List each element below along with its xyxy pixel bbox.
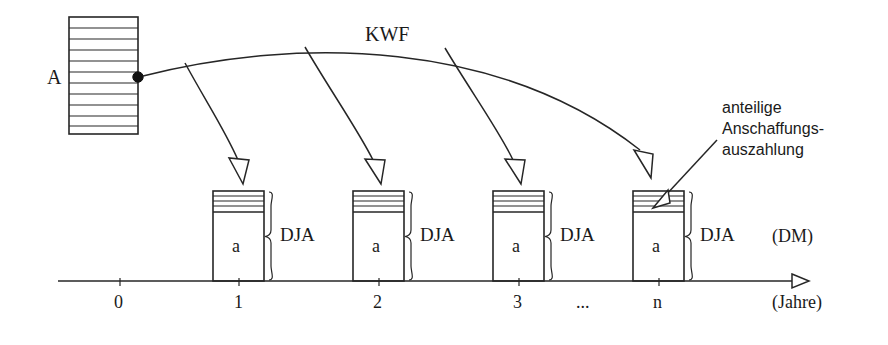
kwf-label: KWF	[365, 23, 409, 47]
bar-body-label-4: a	[652, 236, 660, 257]
annuity-bar-2	[353, 191, 412, 281]
diagram-canvas: .s { fill: none; stroke: #262626; stroke…	[0, 0, 888, 345]
arrowhead-annotation	[653, 190, 670, 208]
arrowhead-year-2	[365, 159, 385, 184]
brace-label-2: DJA	[420, 224, 455, 246]
time-axis	[58, 274, 809, 288]
brace-label-1: DJA	[280, 224, 315, 246]
origin-node	[133, 72, 143, 82]
initial-outlay-block	[69, 17, 138, 134]
initial-outlay-label: A	[47, 66, 61, 90]
axis-tick-label-0: 0	[114, 292, 123, 313]
axis-tick-label-2: 2	[373, 292, 382, 313]
annuity-bar-1	[213, 191, 272, 281]
branch-arc-year-2	[305, 47, 385, 184]
bar-body-label-1: a	[232, 236, 240, 257]
brace-label-3: DJA	[560, 224, 595, 246]
cash-flow-diagram: .s { fill: none; stroke: #262626; stroke…	[0, 0, 888, 345]
arrowhead-year-n	[634, 150, 653, 178]
x-unit-label: (Jahre)	[772, 292, 822, 313]
brace-4	[685, 192, 692, 280]
branch-arc-year-1	[185, 63, 249, 184]
axis-ellipsis: ...	[576, 292, 590, 313]
arrowhead-year-1	[229, 158, 249, 184]
y-unit-label: (DM)	[772, 226, 813, 247]
bar-body-label-3: a	[512, 236, 520, 257]
annotation-line-2: Anschaffungs-	[722, 119, 824, 140]
branch-arc-year-3	[445, 48, 525, 184]
axis-tick-label-1: 1	[234, 292, 243, 313]
axis-tick-label-3: 3	[513, 292, 522, 313]
axis-arrowhead	[792, 274, 809, 288]
brace-3	[545, 192, 552, 280]
brace-2	[405, 192, 412, 280]
annuity-bar-3	[493, 191, 552, 281]
brace-1	[265, 192, 272, 280]
brace-label-4: DJA	[700, 224, 735, 246]
axis-tick-label-n: n	[653, 292, 662, 313]
annotation-leader	[653, 140, 717, 208]
arrowhead-year-3	[505, 159, 525, 184]
annotation-line-1: anteilige	[722, 98, 782, 119]
kwf-arc-group	[143, 53, 653, 178]
bar-body-label-2: a	[372, 236, 380, 257]
annotation-line-3: auszahlung	[722, 140, 804, 161]
